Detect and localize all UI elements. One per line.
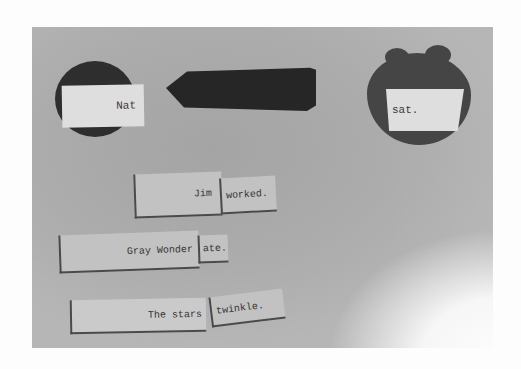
- arrow-left-icon: [166, 66, 316, 112]
- predicate-card: ate.: [198, 234, 229, 263]
- subject-card: Jim: [133, 171, 222, 218]
- subject-word: Gray Wonder: [127, 243, 193, 256]
- predicate-card: worked.: [219, 176, 277, 215]
- subject-word: Jim: [194, 187, 212, 199]
- subject-card: Gray Wonder: [58, 231, 199, 274]
- subject-card-nat: Nat: [62, 84, 145, 127]
- predicate-card: twinkle.: [208, 289, 285, 328]
- predicate-word: sat.: [392, 104, 418, 116]
- predicate-word: worked.: [226, 187, 269, 200]
- predicate-card-sat: sat.: [386, 89, 464, 131]
- predicate-word: twinkle.: [215, 299, 264, 316]
- subject-card: The stars: [70, 298, 207, 334]
- photograph: Nat sat. Jim worked. Gray Wonder ate. Th…: [32, 27, 493, 348]
- subject-word: Nat: [116, 99, 136, 111]
- predicate-word: ate.: [203, 242, 227, 254]
- subject-word: The stars: [148, 308, 202, 320]
